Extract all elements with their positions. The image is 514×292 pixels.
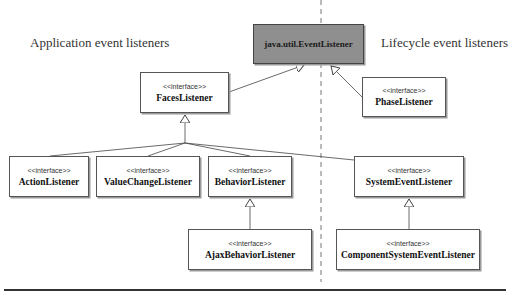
node-event-listener: java.util.EventListener [253, 24, 364, 64]
node-action-listener: <<interface>> ActionListener [9, 156, 89, 197]
stereotype-label: <<interface>> [387, 166, 430, 176]
application-listeners-label: Application event listeners [30, 35, 169, 51]
stereotype-label: <<interface>> [126, 166, 169, 176]
stereotype-label: <<interface>> [386, 239, 429, 249]
node-component-system-event-listener: <<interface>> ComponentSystemEventListen… [336, 229, 480, 270]
stereotype-label: <<interface>> [228, 239, 271, 249]
node-name: ValueChangeListener [104, 176, 192, 188]
node-name: BehaviorListener [215, 176, 286, 188]
node-name: SystemEventListener [366, 176, 453, 188]
node-behavior-listener: <<interface>> BehaviorListener [208, 156, 292, 197]
stereotype-label: <<interface>> [382, 86, 425, 96]
stereotype-label: <<interface>> [228, 166, 271, 176]
node-ajax-behavior-listener: <<interface>> AjaxBehaviorListener [188, 229, 312, 270]
stereotype-label: <<interface>> [27, 166, 70, 176]
node-faces-listener: <<interface>> FacesListener [140, 72, 229, 113]
node-name: java.util.EventListener [264, 38, 353, 50]
node-name: FacesListener [156, 92, 212, 104]
node-system-event-listener: <<interface>> SystemEventListener [354, 156, 464, 197]
node-name: ActionListener [19, 176, 80, 188]
lifecycle-listeners-label: Lifecycle event listeners [381, 35, 508, 51]
stereotype-label: <<interface>> [163, 82, 206, 92]
bottom-rule [4, 289, 506, 291]
node-name: PhaseListener [375, 96, 433, 108]
node-name: AjaxBehaviorListener [205, 249, 295, 261]
node-phase-listener: <<interface>> PhaseListener [362, 77, 446, 117]
node-name: ComponentSystemEventListener [341, 249, 475, 261]
node-value-change-listener: <<interface>> ValueChangeListener [96, 156, 200, 197]
